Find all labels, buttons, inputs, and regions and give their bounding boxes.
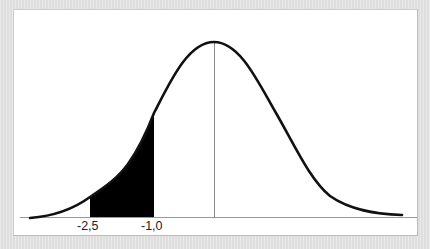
tick-label-upper: -1,0 (141, 219, 163, 233)
bell-curve (30, 42, 402, 218)
shaded-area (90, 113, 154, 217)
normal-curve-chart (0, 0, 430, 249)
tick-label-lower: -2,5 (77, 219, 99, 233)
